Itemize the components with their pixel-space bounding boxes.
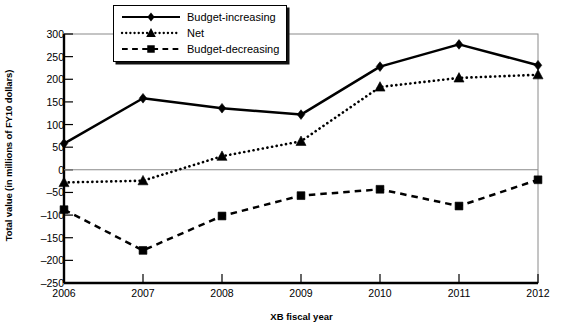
x-tick-label: 2008	[210, 287, 233, 299]
legend-label-net: Net	[187, 27, 204, 39]
data-point-marker	[139, 93, 147, 103]
legend-item: Budget-decreasing	[120, 41, 279, 57]
x-tick-label: 2011	[448, 287, 471, 299]
series-line-1	[64, 75, 538, 183]
data-point-marker	[376, 185, 384, 193]
data-point-marker	[218, 103, 226, 113]
legend-label-budget-decreasing: Budget-decreasing	[187, 43, 279, 55]
legend-key-budget-increasing	[120, 10, 182, 24]
legend-key-net-glyph	[120, 26, 182, 40]
legend-label-budget-increasing: Budget-increasing	[187, 11, 276, 23]
data-point-marker	[139, 246, 147, 254]
legend-key-budget-decreasing-glyph	[120, 42, 182, 56]
legend-item: Net	[120, 25, 279, 41]
data-point-marker	[534, 60, 542, 70]
data-point-marker	[60, 206, 68, 214]
legend-key-budget-increasing-glyph	[120, 10, 182, 24]
data-point-marker	[455, 40, 463, 50]
legend-item: Budget-increasing	[120, 9, 279, 25]
data-point-marker	[218, 212, 226, 220]
x-tick-label: 2009	[289, 287, 312, 299]
data-point-marker	[455, 202, 463, 210]
x-tick-label: 2006	[52, 287, 75, 299]
data-point-marker	[297, 192, 305, 200]
legend-marker	[147, 45, 154, 52]
chart-figure: Total value (in millions of FY10 dollars…	[0, 0, 563, 333]
x-axis-title: XB fiscal year	[0, 311, 563, 322]
data-point-marker	[296, 136, 306, 145]
x-tick-label: 2007	[131, 287, 154, 299]
series-line-2	[64, 180, 538, 251]
legend-marker	[147, 12, 154, 21]
data-point-marker	[534, 176, 542, 184]
data-point-marker	[297, 110, 305, 120]
legend-key-net	[120, 26, 182, 40]
plot-border	[64, 34, 538, 283]
data-point-marker	[376, 62, 384, 72]
x-tick-label: 2012	[526, 287, 549, 299]
legend-key-budget-decreasing	[120, 42, 182, 56]
data-point-marker	[533, 69, 543, 78]
x-tick-label: 2010	[368, 287, 391, 299]
chart-legend: Budget-increasing Net Budget-decreasing	[113, 5, 287, 62]
